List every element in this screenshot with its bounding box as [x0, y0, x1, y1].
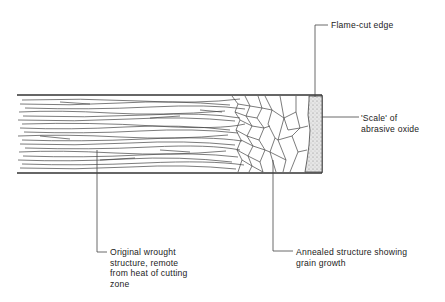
oxide-scale-layer [305, 96, 322, 172]
wrought-structure-zone [18, 99, 245, 169]
leader-flame-cut [315, 25, 328, 97]
leader-original [97, 150, 107, 252]
annealed-grain-zone [232, 96, 308, 172]
steel-bar [17, 95, 322, 173]
flame-cut-edge-label: Flame-cut edge [331, 20, 394, 31]
oxide-scale-label: 'Scale' of abrasive oxide [361, 113, 419, 134]
original-structure-label: Original wrought structure, remote from … [110, 247, 188, 289]
annealed-structure-label: Annealed structure showing grain growth [296, 247, 407, 268]
